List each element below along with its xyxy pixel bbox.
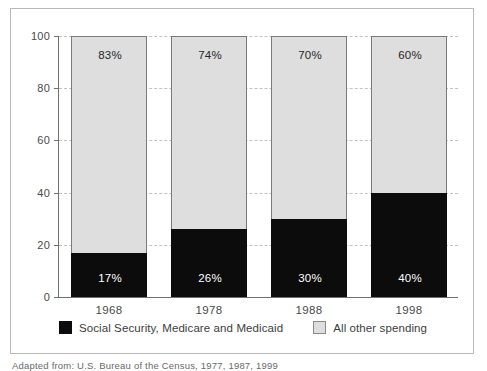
bar-group[interactable]: 74%26%: [171, 36, 247, 297]
bar-group[interactable]: 60%40%: [371, 36, 447, 297]
y-axis-tick: [54, 88, 58, 89]
y-axis-tick: [54, 36, 58, 37]
bar-value-label-other-spending: 83%: [72, 49, 148, 61]
x-axis-tick-label: 1978: [171, 304, 247, 316]
x-axis-tick-label: 1998: [371, 304, 447, 316]
bar-value-label-entitlements: 30%: [272, 272, 348, 284]
bar-value-label-other-spending: 74%: [172, 49, 248, 61]
plot-area: 020406080100 83%17%74%26%70%30%60%40% 19…: [58, 36, 458, 297]
y-axis-tick-label: 20: [37, 239, 50, 251]
legend-swatch-black-square: [59, 321, 72, 334]
y-axis-tick-label: 40: [37, 187, 50, 199]
bar-segment-other-spending[interactable]: 83%: [71, 36, 147, 253]
y-axis-tick-label: 60: [37, 134, 50, 146]
legend-label-entitlements: Social Security, Medicare and Medicaid: [79, 322, 283, 334]
y-axis-tick: [54, 297, 58, 298]
bar-group[interactable]: 70%30%: [271, 36, 347, 297]
y-axis-tick-label: 0: [44, 291, 50, 303]
y-axis-tick: [54, 140, 58, 141]
x-axis-tick-label: 1988: [271, 304, 347, 316]
bar-value-label-entitlements: 17%: [72, 272, 148, 284]
legend-item-entitlements[interactable]: Social Security, Medicare and Medicaid: [59, 321, 283, 334]
bar-value-label-other-spending: 60%: [372, 49, 448, 61]
source-caption: Adapted from: U.S. Bureau of the Census,…: [12, 360, 278, 371]
y-axis-tick-label: 100: [31, 30, 50, 42]
y-axis-tick-label: 80: [37, 82, 50, 94]
chart-legend: Social Security, Medicare and Medicaid A…: [11, 321, 475, 334]
bar-group[interactable]: 83%17%: [71, 36, 147, 297]
y-axis-tick: [54, 193, 58, 194]
bar-segment-entitlements[interactable]: 17%: [71, 253, 147, 297]
y-axis-line: [58, 36, 59, 298]
legend-swatch-gray-square: [313, 321, 326, 334]
bar-segment-other-spending[interactable]: 70%: [271, 36, 347, 219]
bar-segment-entitlements[interactable]: 30%: [271, 219, 347, 297]
bar-segment-entitlements[interactable]: 40%: [371, 193, 447, 297]
bar-segment-other-spending[interactable]: 74%: [171, 36, 247, 229]
bar-value-label-other-spending: 70%: [272, 49, 348, 61]
x-axis-tick-label: 1968: [71, 304, 147, 316]
bar-segment-entitlements[interactable]: 26%: [171, 229, 247, 297]
legend-item-other-spending[interactable]: All other spending: [313, 321, 427, 334]
bar-value-label-entitlements: 26%: [172, 272, 248, 284]
chart-figure-frame: 020406080100 83%17%74%26%70%30%60%40% 19…: [10, 8, 474, 354]
legend-label-other-spending: All other spending: [333, 322, 427, 334]
y-axis-tick: [54, 245, 58, 246]
x-axis-line: [58, 297, 458, 298]
bar-value-label-entitlements: 40%: [372, 272, 448, 284]
bar-segment-other-spending[interactable]: 60%: [371, 36, 447, 193]
